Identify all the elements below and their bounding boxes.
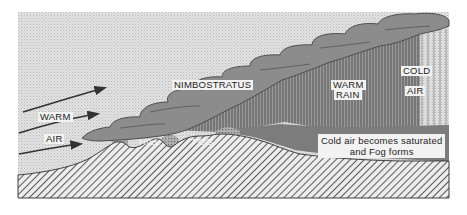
label-warm-rain-rain: RAIN [334,90,362,100]
label-cold-air-cold: COLD [401,66,432,76]
diagram-svg [0,0,467,215]
caption-line-1: Cold air becomes saturated [321,135,442,146]
label-hill: HILL [137,137,162,147]
caption-line-2: and Fog forms [321,146,442,157]
label-warm-air-warm: WARM [38,112,73,122]
label-fog: FOG [190,137,215,147]
diagram-canvas: WARM AIR NIMBOSTRATUS HILL FOG WARM RAIN… [0,0,467,215]
label-warm-air-air: AIR [44,134,64,144]
caption-fog-formation: Cold air becomes saturated and Fog forms [318,134,445,158]
label-nimbostratus: NIMBOSTRATUS [172,80,253,90]
label-cold-air-air: AIR [405,86,425,96]
